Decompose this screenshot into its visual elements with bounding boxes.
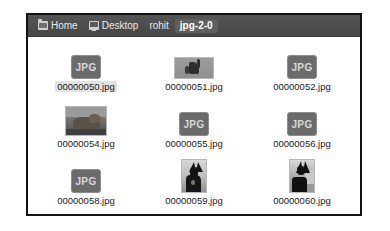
breadcrumb-item-desktop[interactable]: Desktop xyxy=(84,19,144,33)
file-name-label: 00000056.jpg xyxy=(271,138,333,149)
file-name-label: 00000059.jpg xyxy=(163,195,225,206)
jpg-placeholder-icon: JPG xyxy=(179,112,209,136)
file-name-label: 00000052.jpg xyxy=(271,81,333,92)
file-name-label: 00000060.jpg xyxy=(271,195,333,206)
thumbnail: JPG xyxy=(287,102,317,136)
file-name-label: 00000055.jpg xyxy=(163,138,225,149)
thumbnail: JPG xyxy=(179,102,209,136)
file-grid: JPG 00000050.jpg 00000051.jpg JPG 000000… xyxy=(28,37,360,208)
breadcrumb-item-label: jpg-2-0 xyxy=(180,20,213,32)
file-item[interactable]: 00000054.jpg xyxy=(32,94,140,151)
file-name-label: 00000058.jpg xyxy=(55,195,117,206)
breadcrumb: Home Desktop rohit jpg-2-0 xyxy=(28,15,360,37)
jpg-placeholder-icon: JPG xyxy=(287,112,317,136)
icon-view: JPG 00000050.jpg 00000051.jpg JPG 000000… xyxy=(28,37,360,214)
thumbnail xyxy=(174,45,214,79)
thumbnail: JPG xyxy=(71,45,101,79)
breadcrumb-item-label: Home xyxy=(51,20,78,32)
file-manager-window: Home Desktop rohit jpg-2-0 JPG 00000050.… xyxy=(26,13,362,216)
file-item[interactable]: JPG 00000055.jpg xyxy=(140,94,248,151)
file-name-label: 00000050.jpg xyxy=(55,81,117,92)
photo-thumbnail-icon xyxy=(181,159,207,193)
file-item[interactable]: JPG 00000052.jpg xyxy=(248,37,356,94)
jpg-placeholder-icon: JPG xyxy=(71,169,101,193)
breadcrumb-item-rohit[interactable]: rohit xyxy=(144,19,173,33)
photo-thumbnail-icon xyxy=(289,159,315,193)
thumbnail xyxy=(181,159,207,193)
file-item[interactable]: 00000060.jpg xyxy=(248,151,356,208)
thumbnail: JPG xyxy=(287,45,317,79)
breadcrumb-item-home[interactable]: Home xyxy=(33,19,83,33)
monitor-icon xyxy=(89,21,99,30)
file-item[interactable]: JPG 00000050.jpg xyxy=(32,37,140,94)
file-item[interactable]: 00000051.jpg xyxy=(140,37,248,94)
file-item[interactable]: 00000059.jpg xyxy=(140,151,248,208)
breadcrumb-item-jpg-2-0[interactable]: jpg-2-0 xyxy=(175,19,218,33)
jpg-placeholder-icon: JPG xyxy=(71,55,101,79)
file-item[interactable]: JPG 00000058.jpg xyxy=(32,151,140,208)
file-name-label: 00000051.jpg xyxy=(163,81,225,92)
photo-thumbnail-icon xyxy=(65,106,107,136)
breadcrumb-item-label: rohit xyxy=(149,20,168,32)
photo-thumbnail-icon xyxy=(174,57,214,79)
thumbnail: JPG xyxy=(71,159,101,193)
jpg-placeholder-icon: JPG xyxy=(287,55,317,79)
folder-icon xyxy=(38,21,48,30)
file-name-label: 00000054.jpg xyxy=(55,138,117,149)
file-item[interactable]: JPG 00000056.jpg xyxy=(248,94,356,151)
breadcrumb-item-label: Desktop xyxy=(102,20,139,32)
thumbnail xyxy=(65,102,107,136)
thumbnail xyxy=(289,159,315,193)
